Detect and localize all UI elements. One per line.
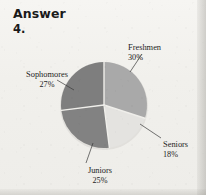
pie-label-juniors-name: Juniors	[88, 166, 112, 175]
pie-label-seniors-percent: 18%	[163, 150, 188, 160]
pie-label-juniors: Juniors 25%	[76, 166, 124, 186]
scanned-page: Answer 4. Freshmen 30% Seniors 18%	[0, 0, 206, 195]
pie-label-freshmen: Freshmen 30%	[128, 43, 161, 63]
pie-label-freshmen-name: Freshmen	[128, 43, 161, 52]
leader-line-seniors	[140, 124, 161, 138]
pie-label-sophomores-percent: 27%	[14, 80, 80, 90]
pie-label-sophomores: Sophomores 27%	[14, 70, 80, 90]
pie-label-freshmen-percent: 30%	[128, 53, 161, 63]
pie-label-seniors: Seniors 18%	[163, 140, 188, 160]
pie-label-seniors-name: Seniors	[163, 140, 188, 149]
pie-slice-juniors[interactable]	[61, 105, 109, 148]
pie-label-sophomores-name: Sophomores	[26, 70, 68, 79]
pie-chart: Freshmen 30% Seniors 18% Juniors 25% Sop…	[0, 0, 206, 195]
pie-label-juniors-percent: 25%	[76, 176, 124, 186]
